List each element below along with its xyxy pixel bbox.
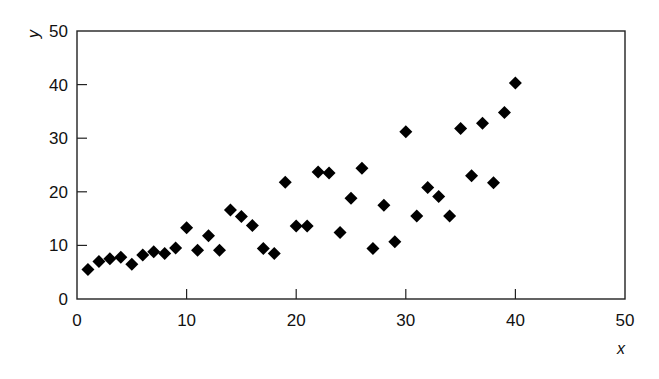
y-axis-title: y [25, 29, 42, 39]
y-axis: 01020304050 [49, 22, 87, 309]
scatter-chart: 01020304050 01020304050 y x [0, 0, 659, 379]
y-tick-label: 30 [49, 129, 68, 148]
data-point-diamond [355, 162, 368, 175]
data-point-diamond [279, 176, 292, 189]
data-point-diamond [114, 251, 127, 264]
data-point-diamond [191, 244, 204, 257]
y-tick-label: 20 [49, 183, 68, 202]
x-axis: 01020304050 [72, 289, 634, 330]
y-tick-label: 0 [59, 290, 68, 309]
y-tick-label: 50 [49, 22, 68, 41]
data-point-diamond [421, 181, 434, 194]
x-tick-label: 30 [396, 311, 415, 330]
data-point-diamond [345, 192, 358, 205]
plot-border [77, 31, 625, 299]
data-point-diamond [213, 244, 226, 257]
data-point-diamond [334, 226, 347, 239]
y-tick-label: 10 [49, 236, 68, 255]
data-point-diamond [125, 258, 138, 271]
data-point-diamond [92, 255, 105, 268]
data-point-diamond [202, 229, 215, 242]
data-point-diamond [103, 252, 116, 265]
data-point-diamond [476, 117, 489, 130]
data-point-diamond [268, 247, 281, 260]
x-tick-label: 20 [287, 311, 306, 330]
data-point-diamond [487, 176, 500, 189]
x-tick-label: 50 [616, 311, 635, 330]
data-point-diamond [366, 242, 379, 255]
data-point-diamond [169, 242, 182, 255]
x-tick-label: 10 [177, 311, 196, 330]
data-points [81, 76, 521, 276]
x-axis-title: x [616, 340, 626, 357]
plot-frame [77, 31, 625, 299]
data-point-diamond [312, 165, 325, 178]
data-point-diamond [509, 76, 522, 89]
data-point-diamond [388, 235, 401, 248]
data-point-diamond [136, 249, 149, 262]
data-point-diamond [235, 210, 248, 223]
data-point-diamond [301, 220, 314, 233]
data-point-diamond [81, 263, 94, 276]
x-tick-label: 0 [72, 311, 81, 330]
data-point-diamond [180, 221, 193, 234]
data-point-diamond [454, 122, 467, 135]
data-point-diamond [377, 199, 390, 212]
data-point-diamond [158, 247, 171, 260]
data-point-diamond [465, 169, 478, 182]
data-point-diamond [443, 209, 456, 222]
y-tick-label: 40 [49, 76, 68, 95]
data-point-diamond [246, 219, 259, 232]
data-point-diamond [432, 190, 445, 203]
figure-caption-clipped [100, 372, 560, 379]
data-point-diamond [410, 209, 423, 222]
data-point-diamond [147, 245, 160, 258]
x-tick-label: 40 [506, 311, 525, 330]
data-point-diamond [323, 167, 336, 180]
data-point-diamond [399, 125, 412, 138]
data-point-diamond [498, 106, 511, 119]
data-point-diamond [224, 204, 237, 217]
data-point-diamond [257, 242, 270, 255]
